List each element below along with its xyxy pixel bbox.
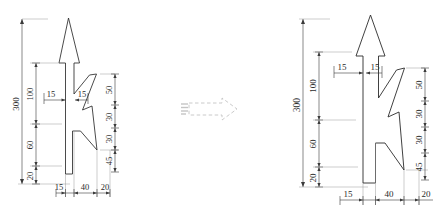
dim-label-30b-right: 30 — [414, 135, 424, 145]
dim-label-20-bottom-right: 20 — [422, 189, 432, 199]
dim-label-60-left: 60 — [25, 141, 35, 150]
dim-label-50-right: 50 — [414, 80, 424, 90]
dim-label-15-shaft-left: 15 — [47, 89, 56, 99]
dim-label-20-left: 20 — [25, 172, 35, 181]
dim-label-15-bottom-right: 15 — [344, 189, 354, 199]
left-figure: 300 100 60 20 — [11, 18, 119, 197]
dim-bottom-left-figure: 15 40 20 — [55, 182, 110, 197]
lightning-arrow-outline-right — [356, 15, 405, 183]
dim-label-40-bottom-left: 40 — [81, 182, 90, 192]
dim-label-15-shaft-right: 15 — [338, 62, 348, 72]
technical-drawing-sheet: 300 100 60 20 — [0, 0, 439, 220]
dim-label-60-right: 60 — [308, 139, 318, 149]
dim-label-15-flag-left: 15 — [78, 89, 87, 99]
extension-lines-right — [299, 19, 428, 205]
dim-chain-far-right: 50 30 30 45 — [414, 68, 429, 180]
dim-label-30b-left: 30 — [104, 135, 114, 144]
dim-label-300-right: 300 — [292, 98, 302, 113]
drawing-canvas: 300 100 60 20 — [0, 0, 439, 220]
dim-label-45-right: 45 — [414, 162, 424, 172]
right-figure: 300 100 60 20 — [292, 15, 433, 205]
dim-label-100-left: 100 — [25, 88, 35, 101]
dim-label-40-bottom-right: 40 — [385, 189, 395, 199]
dim-label-20-bottom-left: 20 — [101, 182, 110, 192]
dim-label-100-right: 100 — [308, 79, 318, 93]
leader-15-shaft-left: 15 — [44, 89, 66, 104]
dim-label-50-left: 50 — [104, 86, 114, 95]
dim-label-20-right: 20 — [308, 173, 318, 183]
dim-label-300-left: 300 — [11, 97, 21, 111]
extension-lines-left — [18, 19, 118, 197]
dim-overall-300-right: 300 — [292, 19, 305, 187]
dim-label-15-bottom-left: 15 — [55, 182, 64, 192]
dashed-transform-arrow — [181, 98, 237, 120]
dim-label-30a-left: 30 — [104, 113, 114, 122]
dim-label-45-left: 45 — [104, 157, 114, 166]
dim-overall-300-left: 300 — [11, 19, 24, 184]
dim-label-30a-right: 30 — [414, 109, 424, 119]
transform-arrow-ghost-mark — [181, 104, 188, 114]
dim-chain-right-left-figure: 50 30 30 45 — [104, 74, 119, 172]
dim-label-15-flag-right: 15 — [371, 62, 381, 72]
leader-15-shaft-right: 15 — [334, 62, 363, 78]
leader-15-flag-right: 15 — [366, 62, 382, 78]
